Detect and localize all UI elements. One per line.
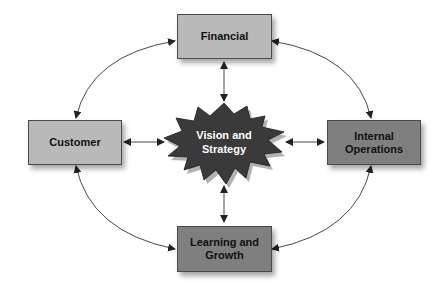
node-learning-growth: Learning and Growth xyxy=(177,226,272,272)
arc-customer-learning xyxy=(76,166,175,249)
node-internal-operations: Internal Operations xyxy=(327,120,421,165)
node-customer: Customer xyxy=(28,120,122,165)
node-financial-label: Financial xyxy=(201,30,249,43)
center-label: Vision and Strategy xyxy=(174,128,274,156)
center-label-line1: Vision and xyxy=(174,128,274,142)
arc-financial-customer xyxy=(76,41,175,118)
node-learning-label-line1: Learning and xyxy=(190,236,259,249)
arc-financial-internal xyxy=(272,41,371,118)
node-internal-label-line2: Operations xyxy=(345,143,403,156)
arc-internal-learning xyxy=(272,166,371,249)
node-internal-label-line1: Internal xyxy=(345,130,403,143)
node-customer-label: Customer xyxy=(49,136,100,149)
node-learning-label-line2: Growth xyxy=(190,249,259,262)
center-label-line2: Strategy xyxy=(174,142,274,156)
node-financial: Financial xyxy=(177,14,272,59)
